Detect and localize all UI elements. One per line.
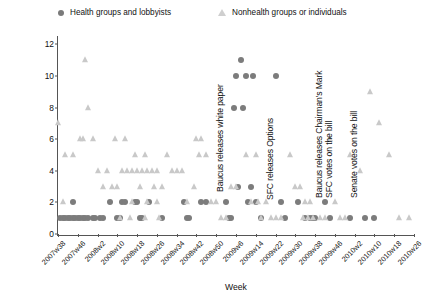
y-axis-tick-label: 6: [49, 134, 54, 144]
data-point-nonhealth: [248, 199, 254, 205]
x-axis-tick-mark: [414, 234, 415, 237]
data-point-nonhealth: [376, 120, 382, 126]
data-point-nonhealth: [278, 214, 284, 220]
data-point-nonhealth: [154, 167, 160, 173]
event-annotation: SFC votes on the bill: [324, 121, 334, 198]
data-point-nonhealth: [406, 214, 412, 220]
data-point-nonhealth: [137, 183, 143, 189]
x-axis-tick-mark: [355, 234, 356, 237]
data-point-nonhealth: [95, 167, 101, 173]
legend-label-nonhealth: Nonhealth groups or individuals: [232, 8, 347, 17]
data-point-health: [70, 199, 76, 205]
data-point-health: [322, 199, 328, 205]
data-point-health: [295, 199, 301, 205]
data-point-nonhealth: [332, 199, 338, 205]
data-point-nonhealth: [60, 199, 66, 205]
x-axis-tick-mark: [117, 234, 118, 237]
data-point-health: [231, 105, 237, 111]
data-point-nonhealth: [164, 151, 170, 157]
x-axis-tick-mark: [58, 234, 59, 237]
data-point-nonhealth: [70, 151, 76, 157]
x-axis-tick-mark: [216, 234, 217, 237]
data-point-nonhealth: [100, 183, 106, 189]
data-point-nonhealth: [386, 151, 392, 157]
data-point-nonhealth: [253, 151, 259, 157]
data-point-nonhealth: [62, 151, 68, 157]
x-axis-tick-mark: [315, 234, 316, 237]
data-point-health: [107, 199, 113, 205]
data-point-nonhealth: [307, 199, 313, 205]
data-point-nonhealth: [198, 135, 204, 141]
y-axis-tick-mark: [55, 202, 58, 203]
data-point-health: [243, 73, 249, 79]
data-point-nonhealth: [112, 135, 118, 141]
data-point-nonhealth: [223, 214, 229, 220]
data-point-nonhealth: [156, 214, 162, 220]
data-point-nonhealth: [144, 199, 150, 205]
data-point-nonhealth: [196, 151, 202, 157]
x-axis-tick-mark: [157, 234, 158, 237]
y-axis-tick-label: 0: [49, 229, 54, 239]
data-point-nonhealth: [85, 104, 91, 110]
data-point-nonhealth: [55, 120, 61, 126]
data-point-nonhealth: [104, 167, 110, 173]
data-point-nonhealth: [132, 151, 138, 157]
data-point-nonhealth: [142, 151, 148, 157]
data-point-nonhealth: [159, 183, 165, 189]
data-point-nonhealth: [154, 199, 160, 205]
data-point-nonhealth: [142, 214, 148, 220]
x-axis-tick-mark: [196, 234, 197, 237]
x-axis-tick-mark: [98, 234, 99, 237]
x-axis-tick-mark: [78, 234, 79, 237]
event-annotation: Baucus releases Chairman's Mark: [314, 71, 324, 199]
data-point-nonhealth: [122, 135, 128, 141]
x-axis-tick-mark: [137, 234, 138, 237]
x-axis-tick-mark: [256, 234, 257, 237]
chart-legend: Health groups and lobbyists Nonhealth gr…: [0, 6, 422, 28]
event-annotation: Senate votes on the bill: [349, 111, 359, 198]
data-point-nonhealth: [310, 214, 316, 220]
data-point-nonhealth: [151, 183, 157, 189]
x-axis-title: Week: [58, 282, 414, 292]
data-point-health: [278, 199, 284, 205]
data-point-nonhealth: [184, 199, 190, 205]
legend-label-health: Health groups and lobbyists: [70, 8, 171, 17]
data-point-health: [250, 73, 256, 79]
data-point-nonhealth: [203, 151, 209, 157]
data-point-nonhealth: [213, 199, 219, 205]
data-point-nonhealth: [191, 183, 197, 189]
data-point-health: [248, 184, 254, 190]
data-point-health: [223, 199, 229, 205]
data-point-health: [273, 73, 279, 79]
legend-item-nonhealth: Nonhealth groups or individuals: [218, 8, 347, 17]
y-axis-tick-mark: [55, 75, 58, 76]
data-point-nonhealth: [342, 214, 348, 220]
data-point-nonhealth: [287, 151, 293, 157]
event-annotation: SFC releases Options: [265, 118, 275, 200]
legend-item-health: Health groups and lobbyists: [58, 8, 171, 17]
x-axis-tick-mark: [236, 234, 237, 237]
data-point-health: [371, 215, 377, 221]
x-axis-tick-mark: [374, 234, 375, 237]
data-point-nonhealth: [117, 214, 123, 220]
data-point-nonhealth: [129, 199, 135, 205]
plot-area: Week 0246810122007w382007w462008w22008w1…: [58, 38, 414, 234]
data-point-nonhealth: [255, 199, 261, 205]
data-point-nonhealth: [367, 88, 373, 94]
x-axis-tick-mark: [295, 234, 296, 237]
data-point-nonhealth: [396, 214, 402, 220]
y-axis-tick-mark: [55, 139, 58, 140]
data-point-health: [238, 57, 244, 63]
data-point-nonhealth: [322, 214, 328, 220]
open-triangle-icon: [218, 9, 226, 16]
data-point-nonhealth: [243, 151, 249, 157]
x-axis-tick-mark: [276, 234, 277, 237]
data-point-health: [362, 215, 368, 221]
y-axis-tick-mark: [55, 170, 58, 171]
y-axis-tick-label: 10: [45, 71, 54, 81]
y-axis-tick-mark: [55, 44, 58, 45]
y-axis-tick-label: 2: [49, 197, 54, 207]
data-point-health: [122, 199, 128, 205]
event-annotation: Baucus releases white paper: [215, 84, 225, 192]
data-point-nonhealth: [297, 183, 303, 189]
